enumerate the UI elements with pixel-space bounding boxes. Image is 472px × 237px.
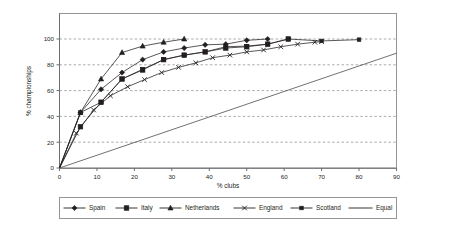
x-tick-label-60: 60 bbox=[281, 173, 288, 180]
legend-label-netherlands: Netherlands bbox=[185, 204, 219, 211]
point-scotland-7 bbox=[203, 50, 207, 54]
point-scotland-3 bbox=[120, 77, 124, 81]
point-scotland-4 bbox=[141, 68, 145, 72]
legend-label-spain: Spain bbox=[89, 204, 106, 212]
point-scotland-10 bbox=[266, 42, 270, 46]
x-tick-label-50: 50 bbox=[243, 173, 250, 180]
x-tick-label-20: 20 bbox=[131, 173, 138, 180]
chart-canvas: 020406080100 0102030405060708090 SpainIt… bbox=[0, 0, 472, 237]
legend-label-italy: Italy bbox=[141, 204, 154, 212]
y-tick-label-20: 20 bbox=[47, 139, 54, 146]
y-tick-label-40: 40 bbox=[47, 113, 54, 120]
x-tick-label-40: 40 bbox=[206, 173, 213, 180]
x-tick-label-90: 90 bbox=[393, 173, 400, 180]
legend-label-england: England bbox=[259, 204, 283, 212]
legend-marker-scotland bbox=[300, 206, 304, 210]
point-scotland-8 bbox=[224, 45, 228, 49]
legend-label-scotland: Scotland bbox=[316, 204, 341, 211]
point-scotland-1 bbox=[79, 111, 83, 115]
point-scotland-11 bbox=[286, 37, 290, 41]
legend-marker-italy bbox=[124, 206, 129, 211]
y-axis-title: % championships bbox=[25, 66, 33, 116]
lorenz-curve-chart: 020406080100 0102030405060708090 SpainIt… bbox=[0, 0, 472, 237]
legend-frame bbox=[60, 198, 397, 219]
x-tick-label-0: 0 bbox=[58, 173, 62, 180]
chart-legend[interactable]: SpainItalyNetherlandsEnglandScotlandEqua… bbox=[60, 198, 397, 219]
point-scotland-9 bbox=[245, 44, 249, 48]
x-axis-title: % clubs bbox=[217, 182, 239, 189]
y-tick-label-100: 100 bbox=[44, 35, 55, 42]
x-tick-label-10: 10 bbox=[93, 173, 100, 180]
x-tick-label-30: 30 bbox=[168, 173, 175, 180]
point-scotland-2 bbox=[99, 100, 103, 104]
x-tick-label-70: 70 bbox=[318, 173, 325, 180]
point-scotland-6 bbox=[182, 53, 186, 57]
legend-label-equal: Equal bbox=[376, 204, 392, 212]
point-scotland-5 bbox=[162, 58, 166, 62]
x-tick-label-80: 80 bbox=[356, 173, 363, 180]
point-scotland-12 bbox=[320, 39, 324, 43]
y-tick-label-60: 60 bbox=[47, 87, 54, 94]
y-tick-label-80: 80 bbox=[47, 61, 54, 68]
y-tick-label-0: 0 bbox=[51, 164, 55, 171]
point-scotland-13 bbox=[357, 38, 361, 42]
